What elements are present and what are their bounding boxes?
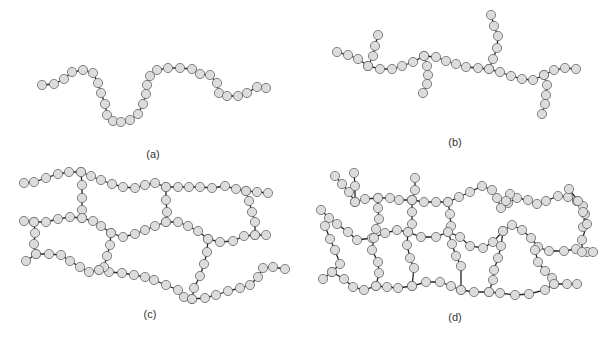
monomer-bead [263,188,272,197]
monomer-bead [244,196,253,205]
monomer-bead [367,245,376,254]
monomer-bead [350,181,359,190]
monomer-bead [371,281,380,290]
monomer-bead [19,178,28,187]
monomer-bead [368,51,377,60]
monomer-bead [373,193,382,202]
monomer-bead [393,283,402,292]
monomer-bead [363,61,372,70]
monomer-bead [117,268,126,277]
monomer-bead [487,185,496,194]
monomer-bead [118,232,127,241]
monomer-bead [140,180,149,189]
monomer-bead [517,225,526,234]
monomer-bead [252,82,261,91]
panel-label-a: (a) [146,148,159,160]
monomer-bead [59,74,68,83]
monomer-bead [37,80,46,89]
monomer-bead [215,237,224,246]
monomer-bead [375,64,384,73]
monomer-bead [441,56,450,65]
monomer-bead [125,115,134,124]
monomer-bead [88,68,97,77]
monomer-bead [407,207,416,216]
monomer-bead [76,167,85,176]
monomer-bead [211,290,220,299]
monomer-bead [19,216,28,225]
monomer-bead [571,64,580,73]
monomer-bead [451,59,460,68]
monomer-bead [421,277,430,286]
monomer-bead [41,173,50,182]
monomer-bead [161,195,170,204]
monomer-bead [130,183,139,192]
monomer-bead [343,227,352,236]
monomer-bead [469,287,478,296]
monomer-bead [203,234,212,243]
monomer-bead [451,251,460,260]
monomer-bead [530,245,539,254]
monomer-bead [496,241,505,250]
monomer-bead [495,67,504,76]
monomer-bead [447,239,456,248]
monomer-bead [488,275,497,284]
monomer-bead [560,63,569,72]
monomer-bead [431,197,440,206]
monomer-bead [320,221,329,230]
monomer-bead [199,259,208,268]
monomer-bead [29,217,38,226]
monomer-bead [335,259,344,268]
monomer-bead [486,10,495,19]
monomer-bead [578,207,587,216]
panel-crosslinked-polymer [19,167,289,303]
monomer-bead [77,213,86,222]
monomer-bead [493,253,502,262]
monomer-bead [422,79,431,88]
monomer-bead [408,57,417,66]
monomer-bead [330,245,339,254]
monomer-bead [405,253,414,262]
monomer-bead [242,88,251,97]
monomer-bead [410,173,419,182]
monomer-bead [30,228,39,237]
monomer-bead [195,69,204,78]
monomer-bead [253,272,262,281]
monomer-bead [423,70,432,79]
monomer-bead [77,180,86,189]
monomer-bead [84,267,93,276]
monomer-bead [77,193,86,202]
monomer-bead [318,274,327,283]
monomer-bead [455,232,464,241]
monomer-bead [239,231,248,240]
monomer-bead [205,70,214,79]
monomer-bead [152,65,161,74]
monomer-bead [484,287,493,296]
monomer-bead [258,263,267,272]
monomer-bead [540,266,549,275]
monomer-bead [29,239,38,248]
monomer-bead [118,182,127,191]
monomer-bead [250,217,259,226]
monomer-bead [261,230,270,239]
monomer-bead [465,187,474,196]
monomer-bead [316,205,325,214]
monomer-bead [507,220,516,229]
monomer-bead [443,197,452,206]
monomer-bead [493,31,502,40]
monomer-bead [268,262,277,271]
monomer-bead [492,193,501,202]
monomer-bead [223,286,232,295]
monomer-bead [343,50,352,59]
monomer-bead [150,178,159,187]
monomer-bead [337,179,346,188]
panel-label-c: (c) [144,308,157,320]
monomer-bead [465,241,474,250]
monomer-bead [100,99,109,108]
panel-network-polymer [316,168,597,299]
monomer-bead [528,75,537,84]
monomer-bead [410,185,419,194]
monomer-bead [67,67,76,76]
panel-branched-polymer [332,10,580,118]
monomer-bead [261,83,270,92]
monomer-bead [195,182,204,191]
